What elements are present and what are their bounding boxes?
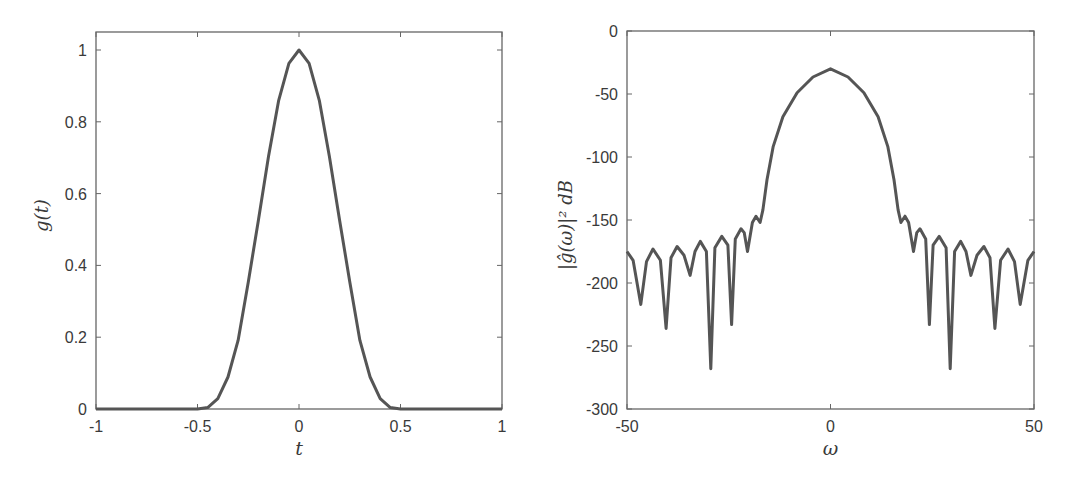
- y-tick-label: -250: [586, 338, 618, 355]
- ticks-left: -1-0.500.5100.20.40.60.81: [65, 32, 507, 435]
- x-tick-label: 0: [826, 418, 835, 435]
- x-tick-label: -1: [89, 418, 103, 435]
- x-tick-label: 0.5: [389, 418, 411, 435]
- y-axis-label-left: g(t): [31, 199, 52, 232]
- y-tick-label: 0.4: [65, 257, 87, 274]
- axes-box-left: [96, 32, 502, 409]
- y-tick-label: -200: [586, 275, 618, 292]
- y-tick-label: 0.2: [65, 329, 87, 346]
- chart-right-spectrum-db: -500500-50-100-150-200-250-300 ω |ĝ(ω)|²…: [555, 23, 1043, 459]
- figure: -1-0.500.5100.20.40.60.81 t g(t) -500500…: [0, 0, 1080, 484]
- y-axis-label-right: |ĝ(ω)|² dB: [555, 180, 577, 270]
- x-tick-label: 0: [295, 418, 304, 435]
- y-tick-label: 0: [78, 401, 87, 418]
- x-tick-label: -0.5: [184, 418, 212, 435]
- y-tick-label: 0.8: [65, 114, 87, 131]
- axes-box-right: [627, 31, 1034, 409]
- y-tick-label: -300: [586, 401, 618, 418]
- y-tick-label: 0: [609, 23, 618, 40]
- x-axis-label-right: ω: [823, 437, 839, 459]
- figure-canvas: -1-0.500.5100.20.40.60.81 t g(t) -500500…: [0, 0, 1080, 484]
- y-tick-label: 0.6: [65, 186, 87, 203]
- x-tick-label: 50: [1025, 418, 1043, 435]
- series-line-g-of-t: [96, 50, 502, 409]
- x-tick-label: -50: [615, 418, 638, 435]
- ticks-right: -500500-50-100-150-200-250-300: [586, 23, 1043, 435]
- x-tick-label: 1: [498, 418, 507, 435]
- x-axis-label-left: t: [295, 437, 303, 459]
- y-tick-label: 1: [78, 42, 87, 59]
- y-tick-label: -150: [586, 212, 618, 229]
- y-tick-label: -100: [586, 149, 618, 166]
- y-tick-label: -50: [595, 86, 618, 103]
- chart-left-g-of-t: -1-0.500.5100.20.40.60.81 t g(t): [31, 32, 507, 459]
- series-line-spectrum: [627, 69, 1034, 369]
